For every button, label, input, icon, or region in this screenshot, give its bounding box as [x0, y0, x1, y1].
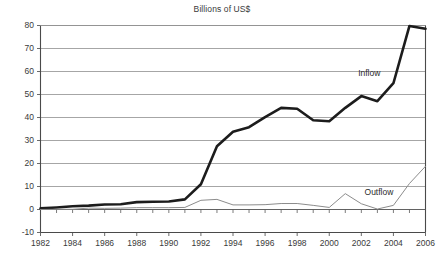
- gridlines: [41, 26, 426, 210]
- y-tick-label: 40: [4, 113, 34, 122]
- y-tick-label: 0: [4, 205, 34, 214]
- y-tick-label: 10: [4, 182, 34, 191]
- series-label-outflow: Outflow: [365, 188, 394, 197]
- y-tick-label: 80: [4, 21, 34, 30]
- y-tick-label: 60: [4, 67, 34, 76]
- y-tick-label: -10: [4, 228, 34, 237]
- y-tick-label: 50: [4, 90, 34, 99]
- series-label-inflow: Inflow: [358, 69, 380, 78]
- y-tick-label: 70: [4, 44, 34, 53]
- x-axis-minor-ticks: [41, 210, 426, 214]
- y-tick-label: 30: [4, 136, 34, 145]
- x-tick-label: 2006: [406, 239, 444, 248]
- plot-area: [0, 0, 444, 263]
- chart-container: Billions of US$ 80706050403020100-10 198…: [0, 0, 444, 263]
- axis-frame: [41, 26, 426, 233]
- y-tick-label: 20: [4, 159, 34, 168]
